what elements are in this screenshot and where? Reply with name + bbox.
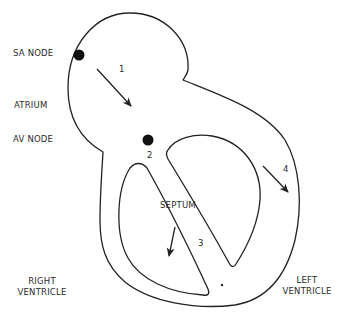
sa-node-label: SA NODE: [13, 48, 53, 59]
right-ventricle-chamber: [119, 164, 209, 296]
step-2-number: 2: [147, 150, 152, 160]
step-4-number: 4: [283, 164, 288, 174]
av-node-label: AV NODE: [13, 134, 53, 145]
apex-dot: [221, 284, 223, 286]
left-ventricle-label: LEFT VENTRICLE: [277, 275, 337, 297]
step-3-number: 3: [198, 238, 203, 248]
right-ventricle-label-line1: RIGHT: [12, 276, 72, 287]
arrow-3-icon: [169, 227, 175, 256]
arrow-1-icon: [97, 69, 131, 106]
left-ventricle-label-line1: LEFT: [277, 275, 337, 286]
left-ventricle-label-line2: VENTRICLE: [277, 286, 337, 297]
septum-label: SEPTUM: [160, 200, 196, 211]
right-ventricle-label-line2: VENTRICLE: [12, 287, 72, 298]
sa-node-dot: [74, 50, 85, 61]
step-1-number: 1: [119, 64, 124, 74]
right-ventricle-label: RIGHT VENTRICLE: [12, 276, 72, 298]
heart-outer-wall: [68, 13, 299, 306]
av-node-dot: [143, 135, 154, 146]
atrium-label: ATRIUM: [14, 100, 48, 111]
